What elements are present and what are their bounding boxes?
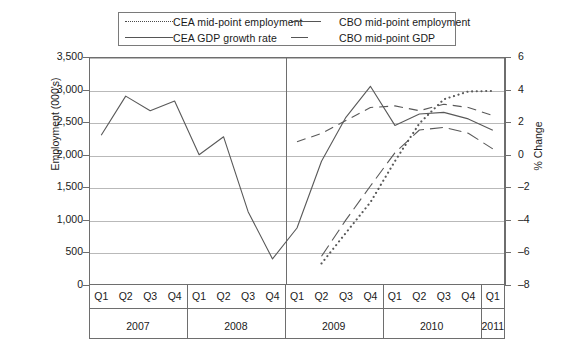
y-axis-right-tick-label: –8	[518, 278, 546, 290]
y-axis-right-tick-label: 2	[518, 115, 546, 127]
series-line-cbo-mid-point-employment	[322, 127, 493, 256]
dotted-line-swatch-icon	[125, 16, 173, 28]
x-axis-group-separator	[89, 285, 90, 309]
dashed-line-swatch-icon	[291, 32, 339, 44]
x-axis-year-band: 20072008200920102011	[89, 309, 505, 339]
x-axis-year-label: 2010	[383, 320, 481, 332]
series-line-cbo-mid-point-gdp	[297, 104, 493, 142]
x-axis-quarter-label: Q3	[235, 290, 261, 302]
x-axis-group-separator	[481, 309, 482, 339]
solid-line-swatch-icon	[125, 32, 173, 44]
y-axis-left-tick-label: 3,500	[37, 50, 83, 62]
y-axis-right-tick-label: 0	[518, 148, 546, 160]
y-axis-left-tick-label: 1,500	[37, 180, 83, 192]
x-axis-group-separator	[481, 285, 482, 309]
y-axis-right-tick-label: –2	[518, 180, 546, 192]
x-axis-group-separator	[187, 285, 188, 309]
chart-legend: CEA mid-point employment CBO mid-point e…	[118, 12, 456, 46]
long-dash-line-swatch-icon	[291, 16, 339, 28]
y-axis-left-tick-label: 500	[37, 245, 83, 257]
y-axis-left-tick-label: 3,000	[37, 83, 83, 95]
x-axis-quarter-label: Q1	[284, 290, 310, 302]
x-axis-quarter-label: Q2	[406, 290, 432, 302]
legend-row-1: CEA mid-point employment CBO mid-point e…	[119, 13, 457, 30]
x-axis-quarter-label: Q4	[260, 290, 286, 302]
x-axis-quarter-label: Q3	[431, 290, 457, 302]
x-axis-group-separator	[187, 309, 188, 339]
legend-item-cea-gdp: CEA GDP growth rate	[125, 29, 277, 46]
x-axis-quarter-label: Q4	[357, 290, 383, 302]
x-axis-quarter-label: Q1	[480, 290, 506, 302]
x-axis-quarter-label: Q4	[455, 290, 481, 302]
x-axis-quarter-label: Q2	[308, 290, 334, 302]
x-axis-year-label: 2011	[481, 320, 505, 332]
y-axis-right-tick-label: 4	[518, 83, 546, 95]
x-axis-year-label: 2007	[89, 320, 187, 332]
legend-row-2: CEA GDP growth rate CBO mid-point GDP	[119, 29, 457, 46]
y-axis-right-tick-label: 6	[518, 50, 546, 62]
x-axis-group-separator	[285, 285, 286, 309]
legend-item-cbo-gdp: CBO mid-point GDP	[291, 29, 435, 46]
x-axis-quarter-label: Q3	[333, 290, 359, 302]
legend-label: CEA mid-point employment	[173, 16, 303, 28]
x-axis-quarter-label: Q4	[162, 290, 188, 302]
legend-label: CBO mid-point employment	[339, 16, 470, 28]
series-line-cea-mid-point-employment	[322, 91, 493, 264]
x-axis-quarter-label: Q2	[211, 290, 237, 302]
y-axis-right-tick-label: –6	[518, 245, 546, 257]
x-axis-group-separator	[89, 309, 90, 339]
y-axis-right-line	[505, 57, 506, 285]
series-line-cea-gdp-growth-rate	[101, 86, 493, 259]
legend-label: CEA GDP growth rate	[173, 32, 277, 44]
legend-label: CBO mid-point GDP	[339, 32, 435, 44]
x-axis-group-separator	[383, 285, 384, 309]
data-series-layer	[89, 57, 505, 285]
x-axis-quarter-band: Q1Q2Q3Q4Q1Q2Q3Q4Q1Q2Q3Q4Q1Q2Q3Q4Q1	[89, 285, 505, 309]
y-axis-left-tick-label: 0	[37, 278, 83, 290]
x-axis-quarter-label: Q1	[186, 290, 212, 302]
x-axis-group-separator	[504, 285, 505, 309]
y-axis-right-tick-mark	[505, 285, 511, 286]
y-axis-left-tick-label: 2,500	[37, 115, 83, 127]
y-axis-left-tick-label: 1,000	[37, 213, 83, 225]
x-axis-quarter-label: Q1	[382, 290, 408, 302]
y-axis-right-tick-label: –4	[518, 213, 546, 225]
x-axis-year-label: 2009	[285, 320, 383, 332]
x-axis-group-separator	[285, 309, 286, 339]
legend-item-cea-employment: CEA mid-point employment	[125, 13, 303, 30]
x-axis-group-separator	[504, 309, 505, 339]
legend-item-cbo-employment: CBO mid-point employment	[291, 13, 470, 30]
x-axis-quarter-label: Q3	[137, 290, 163, 302]
x-axis-quarter-label: Q1	[88, 290, 114, 302]
x-axis-group-separator	[383, 309, 384, 339]
y-axis-left-tick-label: 2,000	[37, 148, 83, 160]
chart-figure: CEA mid-point employment CBO mid-point e…	[0, 0, 573, 358]
x-axis-year-label: 2008	[187, 320, 285, 332]
x-axis-quarter-label: Q2	[113, 290, 139, 302]
